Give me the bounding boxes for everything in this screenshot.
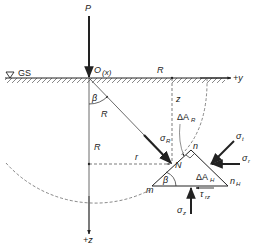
ground-hatch (5, 78, 225, 83)
radius-diagonal-label: R (101, 109, 108, 119)
sigma-z-sub: z (182, 210, 186, 216)
vertex-m-label: m (146, 185, 154, 195)
origin-label: O (94, 65, 101, 75)
origin-axis-label: (x) (102, 68, 112, 77)
depth-z-label: z (175, 94, 181, 104)
radius-vertical-label: R (94, 142, 101, 152)
area-radial-label: ΔA (177, 112, 189, 122)
area-radial-leader (180, 124, 185, 156)
sigma-t-sub: t (242, 136, 244, 142)
boussinesq-stress-diagram: +y GS P O (x) +z R β R σ R R z ΔA R r n … (0, 0, 256, 250)
area-radial-sub: R (191, 117, 196, 123)
load-p-label: P (85, 3, 91, 13)
tau-sub: rz (205, 194, 210, 200)
horizontal-r-label: r (135, 152, 139, 162)
vertex-nh-sub: H (236, 181, 241, 187)
sigma-R-sub: R (166, 138, 171, 144)
point-n-label: N (175, 160, 182, 170)
area-horizontal-sub: H (210, 177, 215, 183)
y-axis-label: +y (233, 73, 243, 83)
radius-circle-arc (6, 163, 150, 203)
sigma-r-sub: r (248, 158, 251, 164)
area-horizontal-label: ΔA (196, 172, 208, 182)
tau-label: τ (200, 189, 204, 199)
vertex-n-label: n (193, 141, 198, 151)
right-angle-mark (186, 154, 194, 158)
vertex-nh-label: n (230, 176, 235, 186)
z-axis-label: +z (83, 235, 93, 245)
radius-top-label: R (157, 65, 164, 75)
beta-top-label: β (91, 93, 97, 103)
ground-surface-triangle-icon (6, 72, 14, 78)
beta-bottom-label: β (162, 175, 168, 185)
sigma-t-arrow (211, 141, 234, 164)
gs-label: GS (18, 68, 31, 78)
